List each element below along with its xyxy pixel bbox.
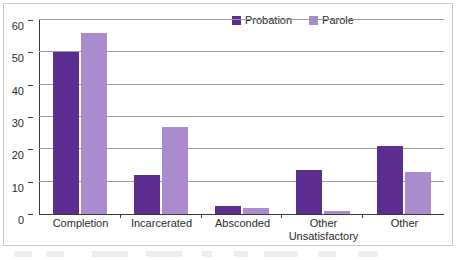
x-axis-tick-label: Other (364, 217, 445, 243)
y-axis-tick-mark (28, 20, 33, 21)
bar-group (282, 20, 363, 214)
y-axis-tick-mark (28, 117, 33, 118)
y-axis-tick-mark (28, 85, 33, 86)
y-axis-labels: 0102030405060 (0, 20, 33, 214)
y-axis-tick-mark (28, 52, 33, 53)
y-axis-tick-mark (28, 182, 33, 183)
x-axis-tick-label: Incarcerated (121, 217, 202, 243)
y-axis-tick-mark (28, 214, 33, 215)
bar-chart: Probation Parole 0102030405060 Completio… (0, 0, 456, 260)
x-axis-tick-label: OtherUnsatisfactory (283, 217, 364, 243)
plot-area (39, 20, 444, 214)
bar-parole (81, 33, 107, 214)
bar-group (121, 20, 202, 214)
bar-group (363, 20, 444, 214)
x-axis-tick-label: Completion (40, 217, 121, 243)
bar-group (202, 20, 283, 214)
bar-parole (324, 211, 350, 214)
x-axis-tick-label: Absconded (202, 217, 283, 243)
bar-parole (162, 127, 188, 214)
bar-groups (40, 20, 444, 214)
bar-group (40, 20, 121, 214)
bar-probation (377, 146, 403, 214)
x-axis-baseline (39, 214, 444, 215)
bar-probation (215, 206, 241, 214)
bar-parole (243, 208, 269, 214)
x-axis-labels: CompletionIncarceratedAbscondedOtherUnsa… (40, 217, 445, 243)
bar-parole (405, 172, 431, 214)
scan-artifact (6, 251, 386, 257)
bar-probation (296, 170, 322, 214)
bar-probation (134, 175, 160, 214)
y-axis-tick-mark (28, 149, 33, 150)
bar-probation (53, 52, 79, 214)
